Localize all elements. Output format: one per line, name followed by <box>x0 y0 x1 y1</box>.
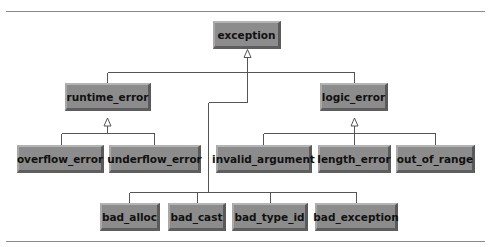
node-label: underflow_error <box>107 153 202 165</box>
node-label: bad_alloc <box>102 211 157 223</box>
inheritance-arrow-exception <box>244 50 251 58</box>
node-bad-cast: bad_cast <box>168 203 226 231</box>
node-label: out_of_range <box>397 153 473 165</box>
node-label: overflow_error <box>17 153 103 165</box>
node-label: length_error <box>317 153 390 165</box>
node-runtime-error: runtime_error <box>65 83 151 111</box>
node-label: exception <box>217 29 275 41</box>
node-bad-type-id: bad_type_id <box>232 203 308 231</box>
node-label: bad_type_id <box>234 211 304 223</box>
node-label: invalid_argument <box>212 153 315 165</box>
inheritance-arrow-runtime-error <box>104 118 111 126</box>
node-bad-alloc: bad_alloc <box>100 203 160 231</box>
inheritance-arrow-logic-error <box>351 118 358 126</box>
node-overflow-error: overflow_error <box>17 145 104 173</box>
node-logic-error: logic_error <box>320 83 388 111</box>
node-out-of-range: out_of_range <box>396 145 475 173</box>
node-label: bad_exception <box>313 211 398 223</box>
node-exception: exception <box>213 21 281 49</box>
node-invalid-argument: invalid_argument <box>216 145 312 173</box>
node-label: runtime_error <box>67 91 149 103</box>
node-label: bad_cast <box>171 211 223 223</box>
node-length-error: length_error <box>318 145 391 173</box>
node-underflow-error: underflow_error <box>109 145 201 173</box>
node-bad-exception: bad_exception <box>315 203 398 231</box>
node-label: logic_error <box>322 91 385 103</box>
